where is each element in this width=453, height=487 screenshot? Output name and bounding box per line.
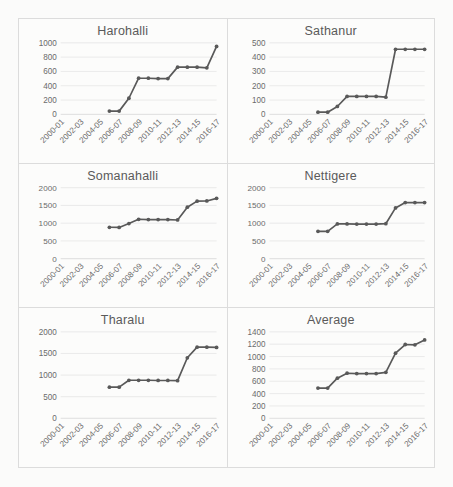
y-axis-tick-label: 0 xyxy=(52,255,57,264)
y-axis-tick-label: 800 xyxy=(43,53,57,62)
y-axis-tick-label: 1000 xyxy=(39,39,58,48)
series-data-point xyxy=(176,65,180,69)
series-data-point xyxy=(374,222,378,226)
series-data-point xyxy=(325,229,329,233)
chart-panel-nettigere: Nettigere 05001000150020002000-012002-03… xyxy=(227,163,436,308)
series-line xyxy=(317,203,424,232)
series-data-point xyxy=(146,218,150,222)
chart-panel-harohalli: Harohalli 020040060080010002000-012002-0… xyxy=(18,18,227,163)
series-data-point xyxy=(364,222,368,226)
series-data-point xyxy=(413,343,417,347)
series-data-point xyxy=(374,95,378,99)
series-data-point xyxy=(364,372,368,376)
series-line xyxy=(317,49,424,112)
y-axis-tick-label: 500 xyxy=(43,393,57,402)
series-data-point xyxy=(205,66,209,70)
series-data-point xyxy=(176,218,180,222)
series-data-point xyxy=(345,222,349,226)
series-data-point xyxy=(127,222,131,226)
chart-panel-sathanur: Sathanur 01002003004005002000-012002-032… xyxy=(227,18,436,163)
chart-panel-average: Average 02004006008001000120014002000-01… xyxy=(227,308,436,468)
y-axis-tick-label: 600 xyxy=(252,377,266,386)
series-data-point xyxy=(137,378,141,382)
series-data-point xyxy=(335,105,339,109)
y-axis-tick-label: 0 xyxy=(52,414,57,423)
series-line xyxy=(317,340,424,388)
series-data-point xyxy=(117,385,121,389)
series-data-point xyxy=(354,372,358,376)
series-data-point xyxy=(383,370,387,374)
series-data-point xyxy=(422,201,426,205)
y-axis-tick-label: 0 xyxy=(52,110,57,119)
series-data-point xyxy=(393,206,397,210)
y-axis-tick-label: 1000 xyxy=(39,371,58,380)
series-data-point xyxy=(127,96,131,100)
series-data-point xyxy=(205,199,209,203)
series-data-point xyxy=(403,47,407,51)
series-data-point xyxy=(185,356,189,360)
y-axis-tick-label: 0 xyxy=(261,414,266,423)
series-data-point xyxy=(146,378,150,382)
series-data-point xyxy=(393,351,397,355)
y-axis-tick-label: 500 xyxy=(252,39,266,48)
y-axis-tick-label: 1000 xyxy=(247,219,265,228)
y-axis-tick-label: 0 xyxy=(261,255,266,264)
series-data-point xyxy=(108,225,112,229)
series-data-point xyxy=(166,379,170,383)
y-axis-tick-label: 800 xyxy=(252,365,266,374)
series-data-point xyxy=(166,218,170,222)
series-data-point xyxy=(195,65,199,69)
chart-panel-tharalu: Tharalu 05001000150020002000-012002-0320… xyxy=(18,308,227,468)
series-data-point xyxy=(354,95,358,99)
series-data-point xyxy=(108,385,112,389)
chart-plot-somanahalli: 05001000150020002000-012002-032004-05200… xyxy=(19,164,227,307)
series-data-point xyxy=(195,345,199,349)
y-axis-tick-label: 1000 xyxy=(39,219,58,228)
series-data-point xyxy=(335,222,339,226)
series-data-point xyxy=(316,110,320,114)
y-axis-tick-label: 2000 xyxy=(39,328,58,337)
y-axis-tick-label: 200 xyxy=(43,96,57,105)
series-data-point xyxy=(316,229,320,233)
chart-plot-average: 02004006008001000120014002000-012002-032… xyxy=(228,308,435,467)
y-axis-tick-label: 1400 xyxy=(247,328,265,337)
chart-grid: Harohalli 020040060080010002000-012002-0… xyxy=(18,18,435,468)
y-axis-tick-label: 1200 xyxy=(247,340,265,349)
series-data-point xyxy=(354,222,358,226)
series-data-point xyxy=(374,372,378,376)
y-axis-tick-label: 400 xyxy=(252,390,266,399)
series-data-point xyxy=(117,226,121,230)
series-data-point xyxy=(403,343,407,347)
series-data-point xyxy=(413,201,417,205)
y-axis-tick-label: 600 xyxy=(43,67,57,76)
chart-plot-nettigere: 05001000150020002000-012002-032004-05200… xyxy=(228,164,435,307)
series-data-point xyxy=(117,109,121,113)
y-axis-tick-label: 500 xyxy=(252,237,266,246)
y-axis-tick-label: 2000 xyxy=(39,184,58,193)
chart-panel-somanahalli: Somanahalli 05001000150020002000-012002-… xyxy=(18,163,227,308)
series-data-point xyxy=(364,95,368,99)
series-data-point xyxy=(345,95,349,99)
series-data-point xyxy=(185,205,189,209)
series-data-point xyxy=(127,378,131,382)
y-axis-tick-label: 1500 xyxy=(39,349,58,358)
y-axis-tick-label: 0 xyxy=(261,110,266,119)
series-data-point xyxy=(215,196,219,200)
series-data-point xyxy=(137,76,141,80)
series-data-point xyxy=(422,338,426,342)
series-data-point xyxy=(413,47,417,51)
y-axis-tick-label: 1500 xyxy=(39,201,58,210)
series-data-point xyxy=(156,379,160,383)
series-data-point xyxy=(137,217,141,221)
y-axis-tick-label: 300 xyxy=(252,67,266,76)
series-data-point xyxy=(108,109,112,113)
series-data-point xyxy=(325,386,329,390)
series-data-point xyxy=(345,371,349,375)
series-data-point xyxy=(383,95,387,99)
series-data-point xyxy=(205,345,209,349)
series-data-point xyxy=(195,199,199,203)
series-data-point xyxy=(316,386,320,390)
y-axis-tick-label: 400 xyxy=(43,82,57,91)
series-data-point xyxy=(215,346,219,350)
series-data-point xyxy=(335,376,339,380)
